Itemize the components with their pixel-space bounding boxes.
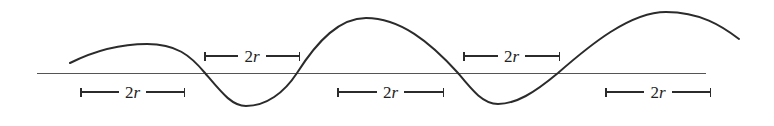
figure-canvas — [0, 0, 774, 126]
sinusoidal-curve — [70, 12, 739, 106]
wave-figure: 2r 2r 2r 2r 2r — [0, 0, 774, 126]
